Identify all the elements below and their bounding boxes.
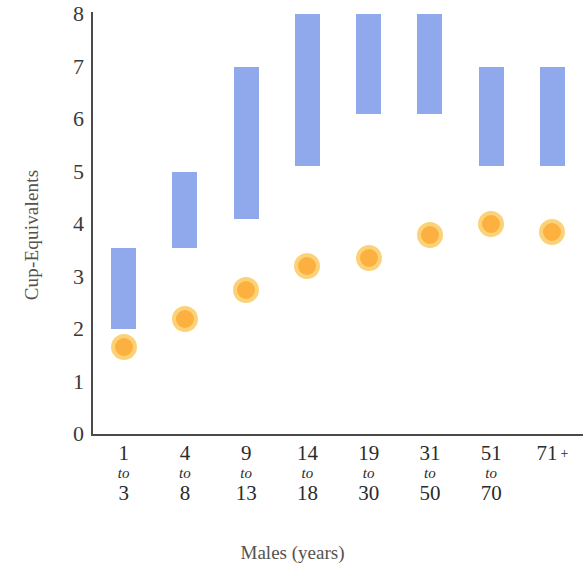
y-axis-tick-label: 1 [44, 371, 84, 393]
y-axis-tick-labels: 012345678 [34, 0, 84, 575]
age-range-end: 13 [215, 483, 277, 504]
age-range-connector: to [215, 466, 277, 481]
age-range-connector: to [399, 466, 461, 481]
range-bar [479, 67, 504, 167]
age-range-connector: to [276, 466, 338, 481]
x-axis-tick-label: 19to30 [338, 443, 400, 504]
age-range-end: 70 [460, 483, 522, 504]
intake-marker [172, 306, 198, 332]
x-axis-tick-label: 4to8 [154, 443, 216, 504]
age-range-end: 30 [338, 483, 400, 504]
age-range-connector: to [154, 466, 216, 481]
y-axis-tick-label: 0 [44, 423, 84, 445]
age-range-start: 71+ [521, 443, 583, 464]
age-range-end: 18 [276, 483, 338, 504]
age-range-start: 14 [276, 443, 338, 464]
intake-marker [356, 245, 382, 271]
plot-area [93, 14, 583, 434]
x-axis-tick-label: 1to3 [93, 443, 155, 504]
age-range-end: 50 [399, 483, 461, 504]
age-range-plus: + [560, 446, 568, 461]
y-axis-tick-label: 5 [44, 161, 84, 183]
x-axis-tick-label: 51to70 [460, 443, 522, 504]
x-axis-tick-labels: 1to34to89to1314to1819to3031to5051to7071+ [93, 443, 583, 523]
range-bar [111, 248, 136, 329]
x-axis-title: Males (years) [0, 542, 585, 564]
age-range-end: 3 [93, 483, 155, 504]
y-axis-tick-label: 2 [44, 318, 84, 340]
age-range-start: 19 [338, 443, 400, 464]
age-range-start: 4 [154, 443, 216, 464]
x-axis-tick-label: 31to50 [399, 443, 461, 504]
age-range-end: 8 [154, 483, 216, 504]
age-range-connector: to [338, 466, 400, 481]
x-axis-tick-label: 14to18 [276, 443, 338, 504]
x-axis-tick-label: 9to13 [215, 443, 277, 504]
y-axis-tick-label: 8 [44, 3, 84, 25]
range-bar [295, 14, 320, 166]
age-range-connector: to [93, 466, 155, 481]
range-bar [234, 67, 259, 219]
y-axis-tick-label: 6 [44, 108, 84, 130]
intake-marker [233, 277, 259, 303]
age-range-connector: to [460, 466, 522, 481]
range-bar [356, 14, 381, 114]
age-range-start: 9 [215, 443, 277, 464]
chart-container: Cup-Equivalents 012345678 1to34to89to131… [0, 0, 585, 575]
range-bar [172, 172, 197, 248]
age-range-start: 1 [93, 443, 155, 464]
age-range-start: 51 [460, 443, 522, 464]
age-range-start: 31 [399, 443, 461, 464]
x-axis-tick-label: 71+ [521, 443, 583, 464]
range-bar [417, 14, 442, 114]
x-axis-line [91, 434, 583, 436]
range-bar [540, 67, 565, 167]
y-axis-tick-label: 7 [44, 56, 84, 78]
y-axis-tick-label: 3 [44, 266, 84, 288]
intake-marker [111, 334, 137, 360]
intake-marker [417, 222, 443, 248]
y-axis-tick-label: 4 [44, 213, 84, 235]
intake-marker [478, 211, 504, 237]
